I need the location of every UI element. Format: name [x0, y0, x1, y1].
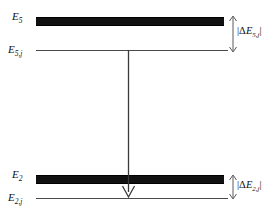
energy-level-label-e5: E5	[12, 11, 22, 22]
energy-level-label-e2-subscript: 2	[19, 174, 23, 183]
gap-label-delta-e2j-delta: Δ	[239, 179, 246, 190]
energy-level-bar-e5	[36, 17, 224, 26]
energy-level-diagram: E5 E5,j E2 E2,j |ΔE5,j| |ΔE2,j|	[0, 0, 275, 214]
energy-level-label-e2j: E2,j	[8, 192, 22, 203]
energy-level-label-e2j-subscript: 2,j	[15, 197, 23, 206]
energy-level-label-e5j-subscript: 5,j	[15, 49, 23, 58]
energy-level-label-e2-base: E	[12, 168, 19, 180]
gap-label-delta-e2j: |ΔE2,j|	[237, 180, 262, 191]
gap-label-delta-e5j-subscript: 5,j	[252, 31, 259, 39]
energy-level-label-e5j: E5,j	[8, 44, 22, 55]
energy-level-label-e5-base: E	[12, 10, 19, 22]
energy-level-label-e2: E2	[12, 169, 22, 180]
gap-label-delta-e5j-delta: Δ	[239, 25, 246, 36]
gap-label-delta-e2j-subscript: 2,j	[252, 185, 259, 193]
energy-level-label-e5-subscript: 5	[19, 16, 23, 25]
transition-arrow-down	[118, 46, 140, 202]
energy-level-label-e5j-base: E	[8, 43, 15, 55]
gap-label-delta-e5j: |ΔE5,j|	[237, 26, 262, 37]
energy-level-label-e2j-base: E	[8, 191, 15, 203]
